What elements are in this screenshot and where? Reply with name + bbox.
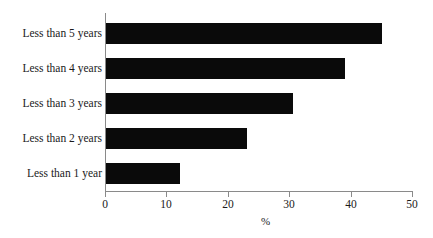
x-axis-line xyxy=(105,191,413,192)
plot-area xyxy=(105,13,412,191)
x-tick-label-40: 40 xyxy=(336,199,366,211)
bar-less-than-1-year xyxy=(106,163,180,184)
x-tick-mark-20 xyxy=(228,192,229,197)
category-label-4-years: Less than 4 years xyxy=(2,63,102,75)
bar-less-than-3-years xyxy=(106,93,293,114)
category-label-2-years: Less than 2 years xyxy=(2,133,102,145)
x-tick-mark-40 xyxy=(351,192,352,197)
x-axis-title-text: % xyxy=(261,215,270,227)
x-tick-label-20: 20 xyxy=(213,199,243,211)
category-label-5-years: Less than 5 years xyxy=(2,28,102,40)
x-tick-label-30: 30 xyxy=(274,199,304,211)
bar-less-than-5-years xyxy=(106,23,382,44)
category-label-1-year: Less than 1 year xyxy=(2,168,102,180)
x-tick-mark-30 xyxy=(289,192,290,197)
bar-chart: Less than 5 years Less than 4 years Less… xyxy=(0,0,433,238)
x-tick-mark-50 xyxy=(412,192,413,197)
x-tick-mark-0 xyxy=(105,192,106,197)
category-label-3-years: Less than 3 years xyxy=(2,98,102,110)
x-tick-label-0: 0 xyxy=(90,199,120,211)
x-tick-label-50: 50 xyxy=(397,199,427,211)
x-tick-mark-10 xyxy=(166,192,167,197)
x-tick-label-10: 10 xyxy=(151,199,181,211)
x-axis-title: % xyxy=(0,216,433,227)
bar-less-than-4-years xyxy=(106,58,345,79)
bar-less-than-2-years xyxy=(106,128,247,149)
